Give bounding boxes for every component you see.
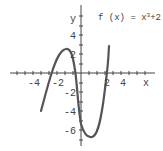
function-label: f (x) = x3+2 <box>98 12 161 23</box>
y-tick-label: -4 <box>64 107 76 118</box>
y-axis-label: y <box>70 14 76 25</box>
y-tick-label: 2 <box>70 50 76 61</box>
y-tick-label: -2 <box>64 88 76 99</box>
x-tick-label: 2 <box>104 78 110 89</box>
y-tick-label: -6 <box>64 126 76 137</box>
x-tick-label: 4 <box>120 78 126 89</box>
y-tick-label: 4 <box>70 31 76 42</box>
x-tick-label: -4 <box>28 78 40 89</box>
x-axis-label: x <box>143 78 149 89</box>
function-plot: y x -4 -2 2 4 4 2 -2 -4 -6 f (x) = x3+2 <box>0 0 163 151</box>
x-tick-label: -2 <box>52 78 64 89</box>
